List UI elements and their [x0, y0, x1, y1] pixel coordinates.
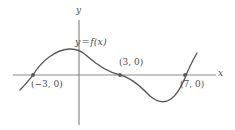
point-label-middle-intercept: (3, 0) — [119, 58, 143, 67]
curve-equation-rhs: f(x) — [90, 36, 106, 47]
intercept-marker-right — [183, 73, 187, 77]
curve-equation-label: y=f(x) — [75, 37, 107, 47]
intercept-marker-middle — [118, 73, 122, 77]
graph-canvas — [0, 0, 235, 130]
curve-equation-operator: = — [80, 36, 90, 47]
function-graph-figure: y x y=f(x) (−3, 0) (3, 0) (7, 0) — [0, 0, 235, 130]
point-label-right-intercept: (7, 0) — [180, 80, 204, 89]
y-axis-label: y — [76, 6, 81, 15]
point-label-left-intercept: (−3, 0) — [31, 80, 63, 89]
intercept-marker-left — [31, 73, 35, 77]
x-axis-label: x — [218, 69, 223, 78]
